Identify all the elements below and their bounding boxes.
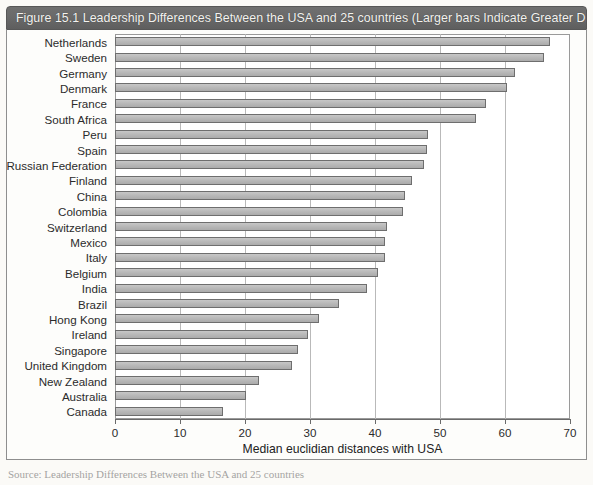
bar[interactable] [115,53,544,62]
bar[interactable] [115,237,385,246]
bar-row[interactable] [115,142,570,157]
bar[interactable] [115,207,403,216]
x-tick-label: 70 [564,426,577,439]
x-tick-label: 20 [239,426,252,439]
y-axis-label: India [82,282,107,295]
bar-row[interactable] [115,111,570,126]
x-tick [375,419,376,424]
bar-row[interactable] [115,203,570,218]
bar-row[interactable] [115,65,570,80]
y-axis-label: Belgium [65,266,107,279]
bar[interactable] [115,314,319,323]
y-axis-label: Mexico [70,235,107,248]
x-tick [310,419,311,424]
x-axis-line [115,419,570,420]
chart-panel: NetherlandsSwedenGermanyDenmarkFranceSou… [6,30,587,460]
y-axis-label: Sweden [65,51,107,64]
y-axis-label: Brazil [78,297,107,310]
y-axis-label: France [71,97,107,110]
y-axis-label: Australia [62,389,107,402]
y-axis-label: Singapore [54,343,107,356]
y-axis-label: Ireland [72,328,107,341]
bar-row[interactable] [115,404,570,419]
bar[interactable] [115,345,298,354]
y-axis-label: Russian Federation [6,158,107,171]
bar-row[interactable] [115,373,570,388]
y-axis-label: Spain [77,143,107,156]
bar[interactable] [115,145,427,154]
x-tick [505,419,506,424]
bar-row[interactable] [115,357,570,372]
x-tick-label: 60 [499,426,512,439]
y-axis-label: Italy [86,251,107,264]
bar[interactable] [115,160,424,169]
x-tick [440,419,441,424]
bar-row[interactable] [115,96,570,111]
bar[interactable] [115,284,367,293]
y-axis-label: Netherlands [44,35,107,48]
bar[interactable] [115,68,515,77]
y-axis-label: Hong Kong [49,312,107,325]
figure-container: Figure 15.1 Leadership Differences Betwe… [6,6,587,461]
bar-row[interactable] [115,250,570,265]
y-axis-label: Switzerland [47,220,107,233]
y-axis-label: Denmark [60,81,107,94]
bar[interactable] [115,176,412,185]
bar-row[interactable] [115,157,570,172]
y-axis-label: United Kingdom [25,359,108,372]
figure-title-bar: Figure 15.1 Leadership Differences Betwe… [6,6,587,30]
y-axis-label: Canada [66,405,107,418]
source-note: Source: Leadership Differences Between t… [8,468,585,480]
y-axis-category-labels: NetherlandsSwedenGermanyDenmarkFranceSou… [7,34,111,419]
bar[interactable] [115,222,387,231]
x-tick [570,419,571,424]
y-axis-label: Peru [83,128,108,141]
bar[interactable] [115,376,259,385]
bar[interactable] [115,391,246,400]
bar-row[interactable] [115,296,570,311]
bar[interactable] [115,83,507,92]
bar[interactable] [115,407,223,416]
bar[interactable] [115,253,385,262]
x-tick [180,419,181,424]
bar-row[interactable] [115,234,570,249]
bar-row[interactable] [115,280,570,295]
bar[interactable] [115,114,476,123]
bar-series [115,34,570,419]
bar[interactable] [115,268,378,277]
y-axis-label: New Zealand [39,374,107,387]
bar[interactable] [115,37,550,46]
y-axis-label: China [77,189,107,202]
bar-row[interactable] [115,311,570,326]
y-axis-label: Finland [69,174,107,187]
x-tick-label: 30 [304,426,317,439]
bar-row[interactable] [115,388,570,403]
bar-row[interactable] [115,49,570,64]
bar-row[interactable] [115,188,570,203]
plot-area [115,34,570,419]
bar-row[interactable] [115,34,570,49]
bar[interactable] [115,330,308,339]
bar-row[interactable] [115,80,570,95]
x-tick [245,419,246,424]
y-axis-label: Colombia [58,205,107,218]
bar[interactable] [115,99,486,108]
bar[interactable] [115,191,405,200]
figure-title: Figure 15.1 Leadership Differences Betwe… [16,11,587,25]
bar-row[interactable] [115,173,570,188]
bar-row[interactable] [115,126,570,141]
bar[interactable] [115,299,339,308]
bar-row[interactable] [115,219,570,234]
y-axis-label: Germany [59,66,107,79]
bar-row[interactable] [115,327,570,342]
bar-row[interactable] [115,342,570,357]
x-axis-title: Median euclidian distances with USA [115,442,570,456]
bar-row[interactable] [115,265,570,280]
x-tick [115,419,116,424]
x-tick-label: 50 [434,426,447,439]
x-tick-label: 10 [174,426,187,439]
bar[interactable] [115,130,428,139]
y-axis-label: South Africa [44,112,107,125]
bar[interactable] [115,361,292,370]
x-tick-label: 0 [112,426,118,439]
